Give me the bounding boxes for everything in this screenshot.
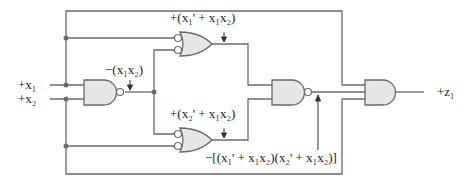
wire-nand1-to-or-top xyxy=(154,50,175,92)
inversion-bubble xyxy=(175,143,182,150)
annotation-or-top-out: +(x₁' + x₁x₂) xyxy=(170,10,235,26)
arrow-down-icon xyxy=(128,80,133,90)
or-bottom-gate xyxy=(175,128,213,152)
input-label-x2: +x₂ xyxy=(18,91,36,107)
arrow-down-icon xyxy=(222,32,227,42)
inversion-bubble xyxy=(305,89,312,96)
inversion-bubble xyxy=(175,131,182,138)
annotation-nand1-out: −(x₁x₂) xyxy=(105,62,143,78)
inversion-bubble xyxy=(175,35,182,42)
nand2-gate xyxy=(272,80,312,105)
junction-dot xyxy=(152,90,157,95)
nand1-gate xyxy=(84,80,124,105)
junction-dot xyxy=(64,83,69,88)
annotation-or-bottom-out: +(x₂' + x₁x₂) xyxy=(170,106,235,122)
arrow-up-icon xyxy=(316,95,321,150)
or-top-gate xyxy=(175,32,213,56)
junction-dot xyxy=(64,144,69,149)
output-label-z1: +z₁ xyxy=(437,84,455,100)
and-output-gate xyxy=(365,80,396,105)
wire-or-top-to-nand2 xyxy=(212,44,272,85)
junction-dot xyxy=(64,36,69,41)
junction-dot xyxy=(64,97,69,102)
inversion-bubble xyxy=(117,89,124,96)
inversion-bubble xyxy=(175,47,182,54)
arrow-down-icon xyxy=(222,128,227,138)
annotation-nand2-out: −[(x₁' + x₁x₂)(x₂' + x₁x₂)] xyxy=(205,150,337,166)
